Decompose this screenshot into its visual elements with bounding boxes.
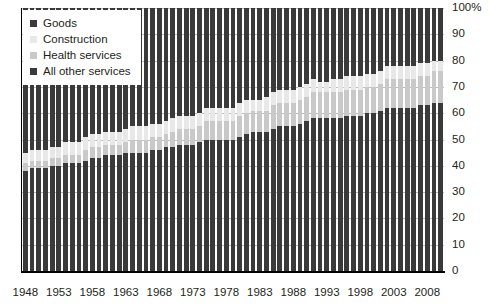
bar-segment: [304, 97, 309, 121]
bar-segment: [405, 8, 410, 66]
legend-swatch-health-services: [30, 52, 37, 59]
bar-segment: [177, 129, 182, 145]
bar-segment: [63, 155, 68, 163]
bar-segment: [391, 79, 396, 108]
bar-segment: [425, 76, 430, 105]
bar-segment: [244, 134, 249, 271]
bar-2000: [371, 8, 376, 271]
y-tick-label: 40: [452, 160, 465, 172]
bar-1968: [157, 8, 162, 271]
bar-segment: [237, 8, 242, 103]
bar-segment: [405, 108, 410, 271]
bar-1972: [184, 8, 189, 271]
bar-segment: [30, 150, 35, 161]
bar-segment: [184, 145, 189, 271]
bar-segment: [291, 126, 296, 271]
bar-1986: [277, 8, 282, 271]
y-tick-label: 20: [452, 212, 465, 224]
bar-segment: [224, 8, 229, 108]
bar-1988: [291, 8, 296, 271]
bar-segment: [70, 163, 75, 271]
bar-segment: [23, 163, 28, 171]
bar-segment: [123, 129, 128, 142]
x-tick-label: 1973: [180, 286, 206, 299]
bar-segment: [30, 168, 35, 271]
bar-segment: [177, 116, 182, 129]
bar-segment: [237, 137, 242, 271]
bar-segment: [271, 92, 276, 105]
bar-segment: [251, 8, 256, 100]
bar-1975: [204, 8, 209, 271]
legend-label-health-services: Health services: [43, 49, 122, 61]
bar-segment: [164, 134, 169, 147]
bar-1985: [271, 8, 276, 271]
y-axis-tick-labels: 100%9080706050403020100: [452, 0, 499, 307]
legend-label-goods: Goods: [43, 17, 77, 29]
legend-swatch-all-other-services: [30, 68, 37, 75]
bar-segment: [351, 76, 356, 89]
bar-segment: [90, 158, 95, 271]
bar-2001: [378, 8, 383, 271]
bar-segment: [257, 111, 262, 132]
bar-segment: [251, 111, 256, 132]
bar-segment: [304, 84, 309, 97]
bar-segment: [358, 90, 363, 116]
bar-segment: [130, 126, 135, 139]
bar-segment: [425, 63, 430, 76]
bar-1981: [244, 8, 249, 271]
bar-segment: [231, 140, 236, 272]
bar-segment: [150, 150, 155, 271]
bar-segment: [264, 132, 269, 271]
bar-segment: [157, 124, 162, 137]
bar-segment: [257, 100, 262, 111]
bar-segment: [338, 118, 343, 271]
bar-segment: [197, 142, 202, 271]
bar-1974: [197, 8, 202, 271]
bar-segment: [50, 158, 55, 166]
bar-segment: [150, 8, 155, 124]
y-tick-label: 0: [452, 265, 458, 277]
legend-label-all-other-services: All other services: [43, 65, 131, 77]
bar-segment: [23, 171, 28, 271]
bar-segment: [385, 79, 390, 108]
bar-1994: [331, 8, 336, 271]
bar-segment: [432, 61, 437, 72]
bar-segment: [344, 116, 349, 271]
chart-figure: 100%9080706050403020100 1948195319581963…: [0, 0, 499, 307]
bar-segment: [311, 8, 316, 79]
x-axis-line: [21, 271, 445, 273]
bar-segment: [358, 8, 363, 76]
bar-segment: [432, 71, 437, 103]
bar-segment: [311, 79, 316, 92]
bar-segment: [365, 87, 370, 113]
bar-segment: [210, 108, 215, 121]
bar-segment: [271, 129, 276, 271]
bar-segment: [418, 76, 423, 105]
bar-1984: [264, 8, 269, 271]
legend-item: All other services: [30, 63, 131, 79]
bar-segment: [190, 8, 195, 116]
bar-segment: [378, 71, 383, 84]
bar-segment: [385, 8, 390, 66]
bar-segment: [271, 105, 276, 129]
bar-segment: [331, 79, 336, 92]
bar-segment: [425, 105, 430, 271]
bar-segment: [190, 129, 195, 145]
bar-segment: [418, 63, 423, 76]
bar-segment: [210, 121, 215, 139]
bar-segment: [398, 108, 403, 271]
bar-segment: [405, 79, 410, 108]
bar-segment: [291, 103, 296, 127]
bar-segment: [291, 90, 296, 103]
y-tick-label: 60: [452, 107, 465, 119]
bar-segment: [204, 140, 209, 272]
bar-segment: [304, 121, 309, 271]
bar-segment: [117, 145, 122, 156]
bar-segment: [331, 92, 336, 118]
bar-segment: [324, 92, 329, 118]
bar-segment: [83, 161, 88, 271]
bar-segment: [197, 8, 202, 113]
bar-segment: [103, 132, 108, 145]
bar-segment: [103, 145, 108, 156]
bar-segment: [117, 132, 122, 145]
